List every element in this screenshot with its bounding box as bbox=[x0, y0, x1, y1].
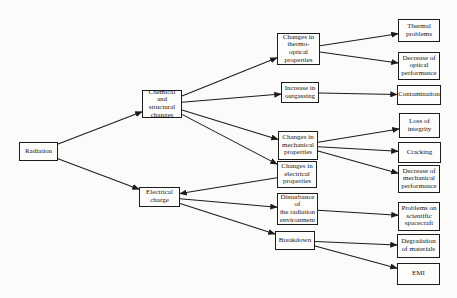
node-label: Cracking bbox=[406, 149, 434, 157]
edge-electrical-properties-to-electrical-charge bbox=[180, 178, 277, 194]
node-thermal-problems: Thermal problems bbox=[398, 19, 440, 42]
node-label: Changes in thermo-optical properties bbox=[278, 34, 319, 64]
node-label: Contamination bbox=[397, 91, 441, 99]
node-degradation-materials: Degradation of materials bbox=[397, 234, 440, 258]
diagram-canvas: RadiationChemical and structural changes… bbox=[0, 0, 457, 298]
node-label: Breakdown bbox=[278, 237, 312, 245]
edge-chemical-changes-to-outgassing bbox=[182, 94, 281, 102]
node-electrical-properties: Changes in electrical properties bbox=[277, 161, 317, 188]
node-label: Changes in electrical properties bbox=[280, 163, 313, 186]
node-label: Problems on scientific spacecraft bbox=[400, 205, 437, 228]
edge-chemical-changes-to-mechanical-properties bbox=[182, 110, 278, 139]
node-radiation: Radiation bbox=[19, 142, 58, 161]
node-label: Radiation bbox=[24, 148, 53, 156]
edges-layer bbox=[0, 0, 457, 298]
node-label: Decrease of mechanical performance bbox=[400, 168, 437, 191]
edge-chemical-changes-to-thermo-optical bbox=[182, 58, 277, 96]
node-label: Changes in mechanical properties bbox=[281, 134, 315, 157]
node-decrease-mechanical: Decrease of mechanical performance bbox=[398, 165, 440, 193]
node-label: Chemical and structural changes bbox=[143, 89, 181, 119]
edge-thermo-optical-to-decrease-optical bbox=[320, 52, 398, 63]
edge-radiation-to-electrical-charge bbox=[58, 159, 139, 190]
edge-breakdown-to-emi bbox=[315, 246, 397, 268]
node-label: Increase in outgassing bbox=[284, 85, 317, 100]
edge-electrical-charge-to-disturbance bbox=[180, 199, 277, 207]
node-cracking: Cracking bbox=[398, 142, 441, 163]
edge-outgassing-to-contamination bbox=[319, 93, 397, 95]
node-disturbance: Disturbance of the radiation environment bbox=[277, 193, 318, 225]
edge-mechanical-properties-to-decrease-mechanical bbox=[318, 151, 398, 173]
node-label: Degradation of materials bbox=[400, 238, 437, 253]
node-thermo-optical: Changes in thermo-optical properties bbox=[277, 33, 320, 65]
edge-radiation-to-chemical-changes bbox=[58, 112, 142, 144]
edge-thermo-optical-to-thermal-problems bbox=[320, 34, 398, 46]
node-label: Loss of integrity bbox=[407, 118, 433, 133]
edge-disturbance-to-problems-spacecraft bbox=[318, 210, 398, 215]
edge-mechanical-properties-to-loss-of-integrity bbox=[318, 129, 399, 142]
node-contamination: Contamination bbox=[397, 85, 441, 105]
node-electrical-charge: Electrical charge bbox=[139, 187, 180, 207]
node-breakdown: Breakdown bbox=[275, 231, 315, 250]
node-chemical-changes: Chemical and structural changes bbox=[142, 90, 182, 118]
node-label: Disturbance of the radiation environment bbox=[278, 194, 317, 224]
node-problems-spacecraft: Problems on scientific spacecraft bbox=[398, 202, 440, 231]
edge-electrical-charge-to-breakdown bbox=[180, 204, 275, 235]
node-emi: EMI bbox=[397, 263, 440, 285]
edge-chemical-changes-to-electrical-properties bbox=[182, 114, 277, 164]
node-label: Thermal problems bbox=[405, 23, 433, 38]
node-label: EMI bbox=[411, 270, 426, 278]
node-loss-of-integrity: Loss of integrity bbox=[399, 113, 440, 138]
node-label: Decrease of optical performance bbox=[400, 55, 437, 78]
edge-breakdown-to-degradation-materials bbox=[315, 241, 397, 245]
node-label: Electrical charge bbox=[145, 189, 174, 204]
node-mechanical-properties: Changes in mechanical properties bbox=[278, 131, 318, 160]
node-decrease-optical: Decrease of optical performance bbox=[398, 52, 440, 80]
edge-mechanical-properties-to-cracking bbox=[318, 147, 398, 152]
node-outgassing: Increase in outgassing bbox=[281, 82, 319, 103]
